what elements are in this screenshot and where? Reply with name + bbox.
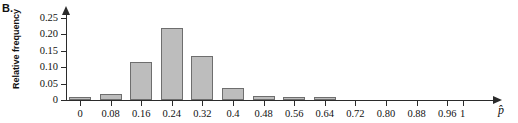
- y-axis-line: [66, 14, 67, 101]
- x-tick-mark: [417, 101, 418, 106]
- x-axis-line: [66, 100, 494, 101]
- x-tick-mark: [325, 101, 326, 106]
- histogram-bar: [161, 28, 183, 100]
- x-tick-mark: [172, 101, 173, 106]
- x-tick-mark: [386, 101, 387, 106]
- histogram-bar: [191, 56, 213, 100]
- x-tick-mark: [264, 101, 265, 106]
- y-tick-mark: [61, 18, 66, 19]
- x-tick-mark: [355, 101, 356, 106]
- y-axis-arrow-icon: [62, 6, 70, 15]
- histogram-bar: [222, 88, 244, 100]
- y-tick-mark: [61, 84, 66, 85]
- x-tick-label: 1: [443, 108, 483, 119]
- x-tick-mark: [233, 101, 234, 106]
- y-tick-label: 0.15: [24, 46, 58, 56]
- histogram-bar: [283, 97, 305, 100]
- y-tick-label: 0: [24, 95, 58, 105]
- plot-area: 00.050.100.150.200.25 00.080.160.240.320…: [0, 0, 518, 123]
- x-tick-mark: [447, 101, 448, 106]
- y-tick-mark: [61, 51, 66, 52]
- y-tick-mark: [61, 34, 66, 35]
- histogram-bar: [69, 97, 91, 100]
- histogram-bar: [100, 94, 122, 100]
- y-tick-label: 0.25: [24, 13, 58, 23]
- x-tick-mark: [463, 101, 464, 106]
- y-tick-mark: [61, 100, 66, 101]
- x-tick-mark: [202, 101, 203, 106]
- x-tick-mark: [111, 101, 112, 106]
- y-tick-mark: [61, 67, 66, 68]
- histogram-bar: [253, 96, 275, 100]
- x-tick-mark: [294, 101, 295, 106]
- y-tick-label: 0.05: [24, 79, 58, 89]
- histogram-bar: [130, 62, 152, 100]
- histogram-bar: [314, 97, 336, 100]
- x-tick-mark: [141, 101, 142, 106]
- y-tick-label: 0.10: [24, 62, 58, 72]
- x-tick-mark: [80, 101, 81, 106]
- figure-panel-b: B. Relative frequency 00.050.100.150.200…: [0, 0, 518, 123]
- x-axis-title: p̂: [498, 104, 504, 116]
- y-tick-label: 0.20: [24, 29, 58, 39]
